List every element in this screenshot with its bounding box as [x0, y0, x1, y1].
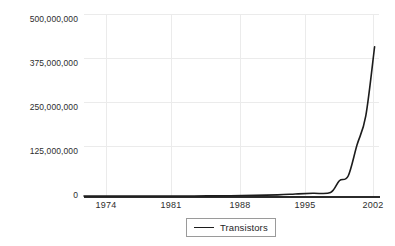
transistor-count-line-chart: 500,000,000 375,000,000 250,000,000 125,…: [0, 0, 395, 246]
legend-line-swatch-transistors: [194, 227, 214, 228]
data-line-transistors: [84, 47, 375, 196]
legend: Transistors: [186, 218, 276, 237]
legend-label-transistors: Transistors: [220, 222, 268, 233]
series-layer: [0, 0, 395, 246]
